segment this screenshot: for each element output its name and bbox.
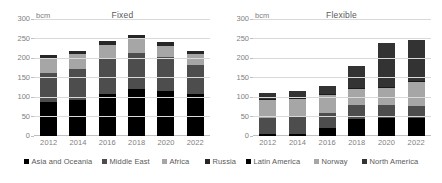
x-axis-label-2020: 2020	[151, 138, 180, 147]
bar-segment[interactable]	[408, 82, 425, 105]
bar-segment[interactable]	[157, 91, 174, 136]
y-axis-tick	[31, 58, 34, 59]
bar-segment[interactable]	[319, 94, 336, 96]
y-axis-label: 200	[17, 54, 30, 62]
legend-item[interactable]: Asia and Oceania	[24, 158, 92, 166]
y-axis-label: 100	[17, 93, 30, 101]
bar-2016[interactable]	[319, 86, 336, 136]
gridline	[253, 97, 431, 98]
legend-item[interactable]: Norway	[314, 158, 348, 166]
bar-segment[interactable]	[187, 65, 204, 94]
bar-segment[interactable]	[378, 87, 395, 89]
y-axis-label: 50	[22, 113, 30, 121]
bar-segment[interactable]	[289, 99, 306, 117]
y-axis-tick	[250, 19, 253, 20]
bar-segment[interactable]	[408, 40, 425, 81]
bar-segment[interactable]	[348, 119, 365, 136]
legend-swatch-icon	[205, 159, 210, 164]
y-axis-tick	[250, 136, 253, 137]
plot-area-fixed: 050100150200250300	[34, 19, 210, 136]
bar-segment[interactable]	[157, 42, 174, 46]
bar-segment[interactable]	[289, 117, 306, 134]
x-axis-label-2018: 2018	[122, 138, 151, 147]
gridline	[34, 38, 210, 39]
plot-area-flexible: 050100150200250300	[253, 19, 431, 136]
bar-segment[interactable]	[40, 58, 57, 73]
y-axis-tick	[31, 19, 34, 20]
x-axis-label-2016: 2016	[93, 138, 122, 147]
y-axis-tick	[250, 77, 253, 78]
bar-segment[interactable]	[69, 51, 86, 54]
bar-segment[interactable]	[69, 54, 86, 69]
bar-segment[interactable]	[259, 118, 276, 135]
legend-item[interactable]: North America	[362, 158, 418, 166]
y-axis-tick	[31, 77, 34, 78]
y-axis-label: 0	[245, 132, 249, 140]
bar-2012[interactable]	[259, 93, 276, 136]
bar-segment[interactable]	[378, 118, 395, 136]
bar-2022[interactable]	[408, 40, 425, 136]
bar-2022[interactable]	[187, 51, 204, 136]
legend-swatch-icon	[246, 159, 251, 164]
gridline	[34, 77, 210, 78]
y-axis-label: 150	[17, 74, 30, 82]
legend-swatch-icon	[24, 159, 29, 164]
bar-segment[interactable]	[259, 99, 276, 100]
x-axis-label-2022: 2022	[401, 138, 431, 147]
x-axis-label-2014: 2014	[63, 138, 92, 147]
legend-item[interactable]: Middle East	[102, 158, 150, 166]
bar-segment[interactable]	[128, 39, 145, 53]
legend-item[interactable]: Africa	[162, 158, 189, 166]
gridline	[34, 116, 210, 117]
bar-segment[interactable]	[378, 43, 395, 87]
y-axis-tick	[250, 38, 253, 39]
bar-segment[interactable]	[259, 134, 276, 136]
x-axis-labels-flexible: 201220142016201820202022	[253, 138, 431, 150]
y-axis-tick	[31, 136, 34, 137]
bar-segment[interactable]	[348, 88, 365, 89]
gridline	[253, 77, 431, 78]
bar-segment[interactable]	[319, 86, 336, 93]
bar-segment[interactable]	[319, 95, 336, 113]
x-axis-label-2014: 2014	[283, 138, 313, 147]
bar-segment[interactable]	[319, 128, 336, 136]
legend-item[interactable]: Latin America	[246, 158, 300, 166]
bar-segment[interactable]	[408, 118, 425, 136]
chart-figure: bcm Fixed 050100150200250300 20122014201…	[0, 0, 442, 183]
legend-label: Latin America	[254, 158, 301, 166]
bar-segment[interactable]	[289, 134, 306, 136]
legend-label: Norway	[322, 158, 348, 166]
y-axis-tick	[250, 116, 253, 117]
bar-2020[interactable]	[157, 42, 174, 136]
legend-item[interactable]: Russia	[205, 158, 236, 166]
y-axis-label: 200	[236, 54, 249, 62]
x-axis-label-2016: 2016	[312, 138, 342, 147]
bar-segment[interactable]	[187, 51, 204, 54]
y-axis-tick	[31, 116, 34, 117]
x-axis-labels-fixed: 201220142016201820202022	[34, 138, 210, 150]
gridline	[253, 116, 431, 117]
bar-segment[interactable]	[40, 102, 57, 136]
bar-segment[interactable]	[348, 105, 365, 119]
y-axis-label: 250	[17, 35, 30, 43]
bar-segment[interactable]	[187, 54, 204, 65]
chart-panel-flexible: bcm Flexible 050100150200250300 20122014…	[221, 0, 442, 155]
legend-swatch-icon	[314, 159, 319, 164]
y-axis-tick	[31, 38, 34, 39]
bar-segment[interactable]	[69, 100, 86, 136]
bar-2016[interactable]	[99, 41, 116, 136]
y-axis-label: 250	[236, 35, 249, 43]
legend-label: North America	[370, 158, 419, 166]
gridline	[34, 58, 210, 59]
y-axis-tick	[250, 58, 253, 59]
bar-segment[interactable]	[157, 57, 174, 91]
x-axis-label-2018: 2018	[342, 138, 372, 147]
bar-segment[interactable]	[99, 41, 116, 45]
bar-2014[interactable]	[289, 91, 306, 136]
bar-segment[interactable]	[69, 69, 86, 100]
bar-segment[interactable]	[289, 98, 306, 99]
bar-segment[interactable]	[408, 81, 425, 82]
bar-segment[interactable]	[157, 46, 174, 58]
bar-2018[interactable]	[128, 35, 145, 136]
bar-2014[interactable]	[69, 51, 86, 136]
